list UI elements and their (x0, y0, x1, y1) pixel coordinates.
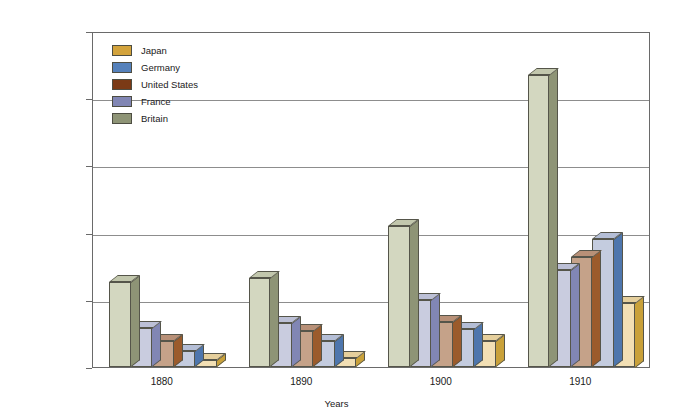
bar-side-face (549, 68, 558, 367)
bar-side-face (292, 316, 301, 367)
legend-swatch-icon (112, 62, 132, 73)
bar-front-face (109, 282, 131, 367)
warship-tonnage-bar-chart: Warship tonnage 500,0001,000,0001,500,00… (0, 0, 673, 418)
legend-item-japan[interactable]: Japan (112, 42, 198, 59)
x-tick-label-1880: 1880 (122, 376, 202, 387)
legend-label: United States (141, 79, 198, 90)
legend-item-britain[interactable]: Britain (112, 110, 198, 127)
bar-side-face (592, 250, 601, 367)
bar-side-face (313, 324, 322, 367)
bar-side-face (474, 322, 483, 367)
gridline (93, 167, 649, 168)
bar-front-face (388, 226, 410, 367)
bar-side-face (270, 271, 279, 367)
bar-side-face (431, 293, 440, 367)
legend-item-united-states[interactable]: United States (112, 76, 198, 93)
bar-side-face (453, 315, 462, 367)
x-tick-label-1890: 1890 (261, 376, 341, 387)
bar-side-face (152, 321, 161, 367)
legend-swatch-icon (112, 45, 132, 56)
bar-side-face (571, 263, 580, 367)
gridline (93, 235, 649, 236)
legend-label: Japan (141, 45, 167, 56)
x-axis-title: Years (0, 398, 673, 409)
legend-label: Britain (141, 113, 168, 124)
legend-item-france[interactable]: France (112, 93, 198, 110)
legend-swatch-icon (112, 113, 132, 124)
bar-front-face (528, 75, 550, 367)
chart-legend: JapanGermanyUnited StatesFranceBritain (112, 42, 198, 127)
y-tick-mark (86, 368, 92, 369)
bar-britain-1880 (109, 282, 131, 367)
bar-side-face (131, 275, 140, 367)
x-tick-label-1910: 1910 (540, 376, 620, 387)
legend-label: Germany (141, 62, 180, 73)
bar-britain-1910 (528, 75, 550, 367)
bar-front-face (249, 278, 271, 367)
legend-swatch-icon (112, 79, 132, 90)
legend-label: France (141, 96, 171, 107)
legend-swatch-icon (112, 96, 132, 107)
bar-side-face (614, 232, 623, 367)
x-tick-label-1900: 1900 (401, 376, 481, 387)
bar-britain-1890 (249, 278, 271, 367)
bar-britain-1900 (388, 226, 410, 367)
bar-side-face (635, 295, 644, 367)
bar-side-face (410, 219, 419, 367)
legend-item-germany[interactable]: Germany (112, 59, 198, 76)
